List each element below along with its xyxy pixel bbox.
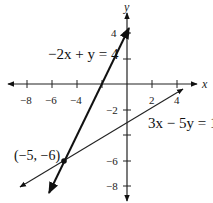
x-axis-label: x — [201, 77, 208, 91]
coordinate-plane: −8 −6 −4 2 4 4 −2 −6 −8 x y −2x + y = 4 … — [0, 0, 213, 203]
equation-label-line2: 3x − 5y = 15 — [148, 115, 213, 131]
y-tick-label: −2 — [106, 104, 118, 116]
x-tick-label: 4 — [174, 94, 180, 106]
y-tick-label: −6 — [106, 155, 118, 167]
y-tick-label: 4 — [111, 27, 117, 39]
x-tick-label: −6 — [45, 94, 57, 106]
x-tick-label: −8 — [20, 94, 32, 106]
y-axis-label: y — [123, 0, 130, 14]
equation-label-line1: −2x + y = 4 — [48, 46, 119, 62]
point-y-intercept — [125, 31, 130, 36]
y-tick-label: −8 — [106, 180, 118, 192]
x-tick-label: −4 — [70, 94, 82, 106]
x-tick-label: 2 — [149, 94, 155, 106]
intersection-point — [61, 158, 67, 164]
intersection-label: (−5, −6) — [14, 148, 60, 164]
